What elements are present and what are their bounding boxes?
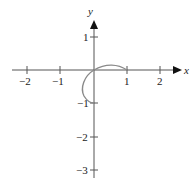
x-tick-label-2: 2 [157, 76, 163, 87]
plot-area [0, 0, 194, 191]
y-tick-label-neg2: −2 [76, 132, 88, 143]
y-axis-arrow-icon [90, 20, 98, 29]
curve-series [82, 65, 127, 103]
y-axis-label: y [88, 6, 93, 17]
x-tick-label-1: 1 [124, 76, 130, 87]
x-tick-label-neg1: −1 [52, 76, 64, 87]
y-tick-label-1: 1 [83, 32, 89, 43]
y-tick-label-neg3: −3 [76, 165, 88, 176]
x-axis-label: x [184, 65, 189, 76]
x-tick-label-neg2: −2 [19, 76, 31, 87]
x-axis-arrow-icon [173, 66, 182, 74]
y-tick-label-neg1: −1 [77, 98, 89, 109]
